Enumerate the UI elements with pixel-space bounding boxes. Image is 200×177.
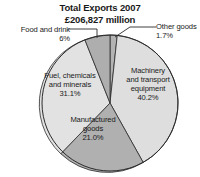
callout-other-goods-percent: 1.7% (156, 32, 200, 41)
slice-label-fuel-line-1: Fuel, chemicals (30, 71, 110, 80)
slice-label-manufactured-goods: Manufactured goods 21.0% (55, 115, 131, 142)
slice-label-manufactured-line-1: Manufactured (55, 115, 131, 124)
callout-food-and-drink-percent: 6% (4, 35, 70, 44)
slice-label-machinery-percent: 40.2% (112, 93, 184, 102)
callout-other-goods: Other goods 1.7% (156, 23, 200, 40)
slice-label-machinery-line-3: equipment (112, 84, 184, 93)
slice-label-fuel-percent: 31.1% (30, 89, 110, 98)
callout-food-and-drink: Food and drink 6% (4, 26, 70, 43)
leader-line-food-and-drink (68, 29, 97, 38)
slice-label-machinery-line-2: and transport (112, 75, 184, 84)
pie-chart-figure: Total Exports 2007 £206,827 million Food… (0, 0, 200, 177)
slice-label-manufactured-percent: 21.0% (55, 133, 131, 142)
slice-label-fuel-chemicals-and-minerals: Fuel, chemicals and minerals 31.1% (30, 71, 110, 98)
slice-label-fuel-line-2: and minerals (30, 80, 110, 89)
slice-label-manufactured-line-2: goods (55, 124, 131, 133)
slice-label-machinery-and-transport-equipment: Machinery and transport equipment 40.2% (112, 66, 184, 102)
slice-label-machinery-line-1: Machinery (112, 66, 184, 75)
